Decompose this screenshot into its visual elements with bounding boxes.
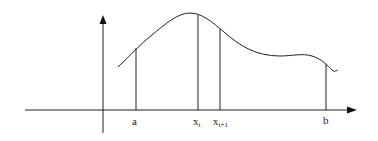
label-x-i: xi [193, 116, 200, 129]
label-a: a [132, 116, 137, 127]
function-diagram [0, 0, 378, 141]
y-axis-arrow-icon [100, 15, 107, 24]
label-x-i-plus-1: xi+1 [213, 116, 228, 129]
x-axis-arrow-icon [347, 107, 357, 114]
label-x-i1-sub: i+1 [219, 121, 228, 129]
label-b: b [323, 115, 329, 126]
function-curve [118, 13, 338, 71]
label-x-i-sub: i [199, 121, 201, 129]
